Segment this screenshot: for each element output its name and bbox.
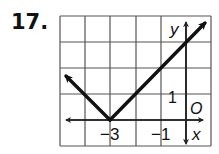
- axes: [66, 22, 203, 144]
- y-tick-label: 1: [168, 89, 177, 106]
- y-axis-label: y: [169, 20, 180, 39]
- x-tick-label: −3: [100, 125, 119, 144]
- origin-label: O: [190, 100, 202, 117]
- x-tick-label: −1: [151, 125, 170, 144]
- grid: [60, 16, 211, 146]
- x-axis-label: x: [191, 125, 201, 144]
- coordinate-graph: y 1 O −3 −1 x: [0, 0, 219, 154]
